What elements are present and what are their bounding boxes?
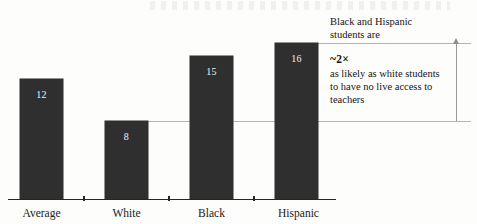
x-axis-tick: [168, 196, 170, 201]
annotation-lead-line-2: students are: [330, 28, 470, 41]
bar-chart-figure: 12 8 15 16 Average White Black Hispanic …: [0, 0, 477, 224]
annotation-body-line-1: as likely as white students: [330, 67, 472, 80]
x-axis-label-white: White: [93, 206, 160, 220]
bar-value-hispanic: 16: [275, 53, 318, 64]
bar-value-white: 8: [105, 131, 148, 142]
annotation-lead: Black and Hispanic students are: [330, 15, 470, 41]
annotation-body-line-2: to have no live access to: [330, 80, 472, 93]
x-axis-label-black: Black: [178, 206, 245, 220]
x-axis-tick: [83, 196, 85, 201]
x-axis-line: [8, 199, 336, 200]
bar-hispanic[interactable]: [275, 43, 318, 199]
annotation-lead-line-1: Black and Hispanic: [330, 15, 470, 28]
bar-value-black: 15: [190, 66, 233, 77]
annotation-body: ~2× as likely as white students to have …: [330, 53, 472, 106]
bar-value-average: 12: [20, 89, 63, 100]
bar-black[interactable]: [190, 56, 233, 199]
x-axis-tick: [253, 196, 255, 201]
plot-area: 12 8 15 16 Average White Black Hispanic …: [0, 0, 477, 224]
annotation-body-line-3: teachers: [330, 93, 472, 106]
annotation-multiplier: ~2×: [330, 53, 472, 66]
x-axis-label-hispanic: Hispanic: [261, 206, 336, 220]
x-axis-label-average: Average: [8, 206, 75, 220]
